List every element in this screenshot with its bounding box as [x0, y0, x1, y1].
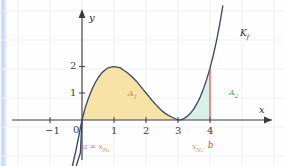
area-a1-label-subscript: 1 [134, 93, 138, 100]
curve-label: Kf [240, 29, 249, 40]
grid-lines [0, 0, 285, 166]
upper-bound-label: b [208, 141, 213, 150]
x-tick-label-1: 1 [111, 126, 117, 136]
y-axis-label: y [89, 13, 95, 23]
x-axis-label: x [259, 105, 265, 115]
x-tick-label-2: 2 [143, 126, 149, 136]
x-tick-label-4: 4 [207, 126, 213, 136]
area-a1-label: A1 [128, 90, 138, 100]
zero2-subscript2: 2 [201, 148, 204, 153]
x-tick-label-3: 3 [175, 126, 181, 136]
lower-bound-text: a = x [83, 142, 103, 151]
curve-label-subscript: f [247, 33, 249, 40]
origin-label: 0 [73, 125, 79, 135]
lower-bound-label: a = xN1 [83, 143, 110, 153]
zero2-label: xN2 [192, 143, 204, 153]
lower-bound-subscript2: 1 [108, 148, 111, 153]
area-a2-fill [178, 68, 210, 120]
figure-container: −1 1 2 3 4 1 2 0 y x Kf A1 A2 a = xN1 xN… [0, 0, 285, 166]
area-a2-label-subscript: 2 [235, 92, 239, 99]
area-a2-label: A2 [229, 89, 239, 99]
coordinate-plot [0, 0, 285, 166]
x-tick-label-minus1: −1 [45, 126, 60, 136]
curve-label-text: K [240, 28, 247, 38]
y-tick-label-2: 2 [70, 61, 76, 71]
y-tick-label-1: 1 [70, 88, 76, 98]
y-axis [79, 9, 86, 160]
